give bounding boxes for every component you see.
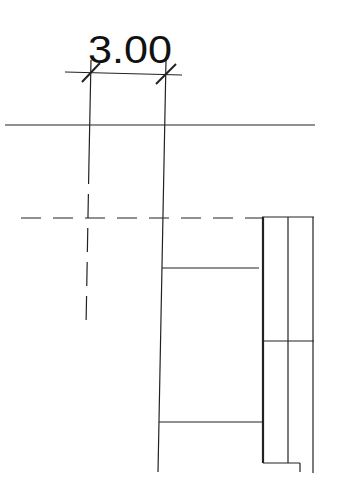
- wall-line: [158, 60, 166, 472]
- cad-drawing: 3.00: [0, 0, 337, 491]
- dimension-label: 3.00: [88, 29, 172, 71]
- centerline-left-vertical: [86, 160, 89, 328]
